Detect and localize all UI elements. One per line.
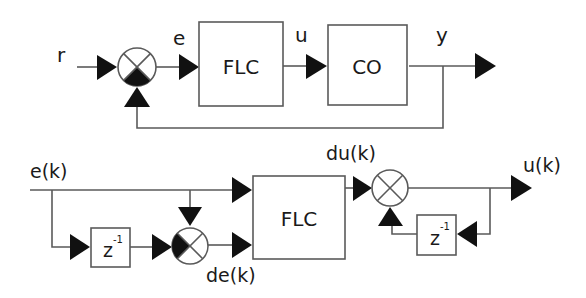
control-arrow-icon: [306, 54, 327, 79]
co-label: CO: [352, 55, 382, 79]
error-arrow-icon: [179, 54, 199, 80]
input-arrow-icon: [97, 55, 117, 80]
error-label-e: e: [173, 26, 185, 50]
control-diagram: r e FLC u CO y e(k): [0, 0, 586, 298]
delay-branch-line: [52, 190, 72, 247]
delay-input-arrow-icon: [70, 234, 90, 260]
delay-exp: -1: [113, 234, 123, 245]
summing-junction-u: [372, 170, 408, 206]
junction-top-arrow-icon: [178, 207, 202, 226]
uk-arrow-icon: [511, 175, 532, 201]
delta-output-label: du(k): [326, 142, 376, 164]
ek-arrow-icon: [232, 177, 252, 203]
bottom-detail: e(k) z -1 de(k) FLC du(k): [30, 142, 561, 286]
top-loop: r e FLC u CO y: [57, 22, 496, 128]
junction-feedback-arrow-icon: [378, 207, 403, 226]
du-arrow-icon: [353, 176, 372, 201]
delta-error-label: de(k): [206, 264, 256, 286]
feedback-delay-base: z: [430, 227, 440, 249]
input-label-ek: e(k): [30, 160, 68, 182]
delay-output-arrow-icon: [152, 234, 172, 260]
output-label-y: y: [436, 23, 448, 47]
de-arrow-icon: [232, 232, 252, 258]
summing-junction-top: [118, 48, 156, 86]
feedback-delay-exp: -1: [440, 221, 450, 232]
feedback-delay-arrow-icon: [457, 221, 477, 247]
flc-label-top: FLC: [223, 55, 260, 79]
output-arrow-icon: [475, 53, 496, 79]
feedback-branch-line: [475, 188, 490, 234]
input-label-r: r: [57, 43, 66, 67]
flc-label-bottom: FLC: [281, 207, 318, 231]
control-label-u: u: [295, 23, 308, 47]
output-label-uk: u(k): [523, 154, 561, 176]
delay-base: z: [103, 239, 113, 261]
summing-junction-de: [172, 228, 208, 264]
feedback-arrow-icon: [124, 87, 150, 107]
